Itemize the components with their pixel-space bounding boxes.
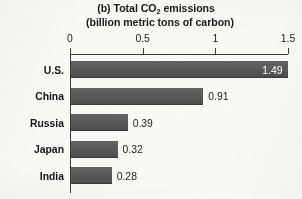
- category-label: Russia: [30, 117, 64, 128]
- x-tick-label: 1: [212, 33, 218, 44]
- bar-row: India0.28: [71, 167, 112, 184]
- x-axis-line: [70, 54, 288, 55]
- bar-value-label: 0.32: [123, 144, 143, 155]
- bar: [71, 167, 112, 184]
- category-label: China: [35, 91, 64, 102]
- bar-value-label: 0.91: [208, 91, 228, 102]
- bar-value-label: 0.28: [117, 170, 137, 181]
- x-tick-mark: [215, 48, 216, 54]
- x-tick-mark: [288, 48, 289, 54]
- x-tick-label: 0.5: [135, 33, 149, 44]
- bar: [71, 88, 203, 105]
- category-label: U.S.: [44, 64, 64, 75]
- x-tick-label: 0: [67, 33, 73, 44]
- bar-value-label: 0.39: [133, 117, 153, 128]
- category-label: India: [40, 170, 64, 181]
- category-label: Japan: [34, 144, 64, 155]
- bar-chart-plot: 00.511.5 U.S.1.49China0.91Russia0.39Japa…: [0, 0, 302, 199]
- x-tick-label: 1.5: [281, 33, 295, 44]
- bar-row: China0.91: [71, 88, 203, 105]
- bar-row: U.S.1.49: [71, 61, 288, 78]
- bar: [71, 61, 288, 78]
- bar-row: Russia0.39: [71, 114, 128, 131]
- x-tick-mark: [143, 48, 144, 54]
- bar: [71, 114, 128, 131]
- bar: [71, 141, 118, 158]
- x-tick-mark: [70, 48, 71, 54]
- bar-value-label: 1.49: [262, 64, 282, 75]
- bar-row: Japan0.32: [71, 141, 118, 158]
